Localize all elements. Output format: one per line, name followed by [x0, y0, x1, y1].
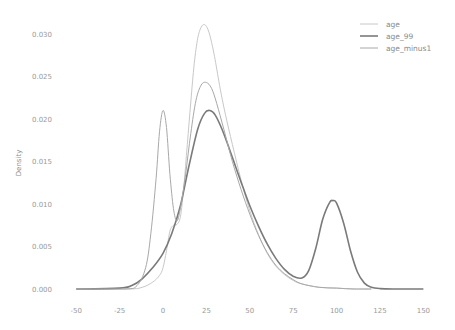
x-tick-label: -25	[114, 307, 125, 315]
x-tick-label: 0	[161, 307, 165, 315]
x-tick-label: 25	[202, 307, 211, 315]
x-tick-label: 50	[245, 307, 254, 315]
series-line-age-minus1	[76, 82, 371, 289]
series-line-age	[76, 25, 371, 289]
legend-item-age-minus1: age_minus1	[360, 44, 432, 53]
y-tick-label: 0.010	[32, 201, 52, 209]
legend-label: age_99	[386, 32, 413, 41]
y-tick-label: 0.000	[32, 286, 52, 294]
legend-item-age: age	[360, 20, 400, 29]
legend-label: age	[386, 20, 400, 29]
x-tick-label: 125	[373, 307, 386, 315]
series-line-age-99	[76, 110, 423, 289]
density-chart: 0.0000.0050.0100.0150.0200.0250.030 -50-…	[0, 0, 455, 330]
y-axis-ticks: 0.0000.0050.0100.0150.0200.0250.030	[32, 31, 52, 294]
y-tick-label: 0.030	[32, 31, 52, 39]
x-tick-label: 150	[417, 307, 430, 315]
x-tick-label: 75	[289, 307, 298, 315]
legend-label: age_minus1	[386, 44, 432, 53]
y-tick-label: 0.015	[32, 158, 52, 166]
y-tick-label: 0.025	[32, 73, 52, 81]
x-tick-label: -50	[70, 307, 81, 315]
plot-lines	[76, 25, 423, 289]
x-tick-label: 100	[330, 307, 343, 315]
legend-item-age-99: age_99	[360, 32, 413, 41]
y-axis-label: Density	[15, 150, 23, 177]
y-tick-label: 0.005	[32, 243, 52, 251]
x-axis-ticks: -50-250255075100125150	[70, 307, 430, 315]
legend: ageage_99age_minus1	[360, 20, 432, 53]
y-tick-label: 0.020	[32, 116, 52, 124]
